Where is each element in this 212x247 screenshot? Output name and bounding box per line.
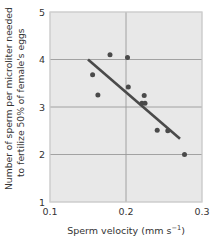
data-point [90, 72, 95, 77]
y-axis-title: Number of sperm per microliter needed to… [3, 7, 26, 190]
data-point [142, 93, 147, 98]
x-tick-label-0.3: 0.3 [194, 206, 209, 217]
x-tick-label-0.2: 0.2 [118, 206, 133, 217]
y-axis-title-line-1: Number of sperm per microliter needed [3, 7, 14, 190]
data-point [126, 85, 131, 90]
x-axis-title-superscript: −1 [171, 224, 181, 232]
data-point [125, 55, 130, 60]
data-point [108, 52, 113, 57]
data-point [143, 101, 148, 106]
x-axis-title-tail: ) [181, 225, 185, 236]
y-tick-label-4: 4 [39, 54, 45, 65]
x-axis-title: Sperm velocity (mm s−1) [67, 224, 185, 236]
x-tick-label-0.1: 0.1 [42, 206, 57, 217]
scatter-plot: 5 4 3 2 1 0.1 0.2 0.3 Sperm velocity (mm… [0, 0, 212, 247]
data-point [95, 93, 100, 98]
figure-container: 5 4 3 2 1 0.1 0.2 0.3 Sperm velocity (mm… [0, 0, 212, 247]
svg-text:Sperm velocity (mm s−1): Sperm velocity (mm s−1) [67, 224, 185, 236]
x-axis-title-main: Sperm velocity (mm s [67, 225, 171, 236]
x-axis-ticks: 0.1 0.2 0.3 [42, 206, 209, 217]
y-axis-ticks: 5 4 3 2 1 [39, 7, 45, 208]
y-tick-label-5: 5 [39, 7, 45, 18]
y-tick-label-2: 2 [39, 149, 45, 160]
data-point [155, 128, 160, 133]
y-tick-label-3: 3 [39, 102, 45, 113]
data-point [165, 128, 170, 133]
y-axis-title-line-2: to fertilize 50% of female's eggs [15, 28, 26, 177]
data-point [182, 152, 187, 157]
